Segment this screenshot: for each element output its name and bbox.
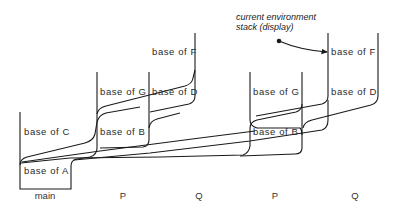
frame-label: base of A [24, 165, 69, 176]
column-label-q: Q [195, 190, 202, 201]
frame-label: base of B [100, 126, 146, 137]
frame-label: base of D [152, 86, 198, 97]
column-label-q: Q [351, 190, 358, 201]
frame-label: base of B [253, 126, 299, 137]
frame-label: base of C [24, 126, 70, 137]
frame-label: base of D [331, 86, 377, 97]
frame-label: base of F [331, 46, 376, 57]
frame-label: base of F [152, 46, 197, 57]
p2-stack-frame [240, 72, 302, 156]
main-stack-frame [20, 112, 71, 189]
frame-label: base of G [100, 86, 147, 97]
column-label-p: P [120, 190, 126, 201]
environment-stack-diagram: current environment stack (display) base… [0, 0, 399, 212]
column-label-main: main [35, 190, 56, 201]
frame-label: base of G [253, 86, 300, 97]
column-label-p: P [272, 190, 278, 201]
annotation-line-1: current environment [236, 12, 317, 22]
display-pointer-arrow [279, 41, 327, 52]
annotation-line-2: stack (display) [236, 22, 294, 32]
